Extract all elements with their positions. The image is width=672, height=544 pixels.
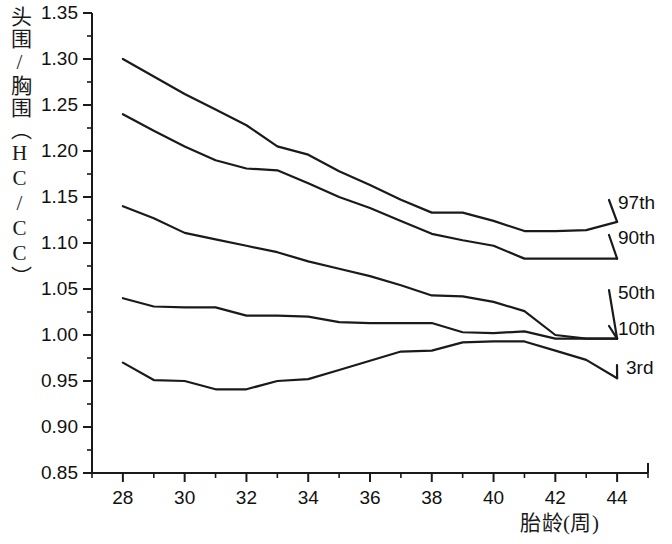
series-line-90th [123, 114, 617, 258]
x-tick-label: 32 [226, 487, 266, 509]
leader-line-97th [609, 200, 617, 222]
series-line-3rd [123, 341, 617, 389]
y-tick-label: 0.85 [16, 462, 78, 484]
minor-ticks [87, 36, 648, 478]
y-tick-label: 1.10 [16, 232, 78, 254]
x-tick-label: 40 [474, 487, 514, 509]
plot-area [0, 0, 672, 544]
x-tick-label: 36 [350, 487, 390, 509]
y-tick-label: 1.25 [16, 94, 78, 116]
series-label-50th: 50th [618, 282, 655, 304]
x-tick-label: 44 [597, 487, 637, 509]
series-label-97th: 97th [618, 192, 655, 214]
x-tick-label: 34 [288, 487, 328, 509]
x-tick-label: 38 [412, 487, 452, 509]
series-line-10th [123, 298, 617, 338]
y-tick-label: 1.15 [16, 186, 78, 208]
y-tick-label: 1.00 [16, 324, 78, 346]
leader-line-90th [609, 235, 617, 259]
y-tick-label: 1.20 [16, 140, 78, 162]
y-tick-label: 1.35 [16, 2, 78, 24]
series-label-3rd: 3rd [626, 357, 653, 379]
series-label-90th: 90th [618, 227, 655, 249]
axis-lines [92, 13, 648, 473]
y-tick-label: 1.30 [16, 48, 78, 70]
x-axis-label: 胎龄(周) [520, 506, 600, 536]
series-line-97th [123, 59, 617, 231]
y-tick-label: 0.90 [16, 416, 78, 438]
x-tick-label: 28 [103, 487, 143, 509]
series-label-10th: 10th [618, 318, 655, 340]
series-lines [123, 59, 617, 389]
series-leader-lines [609, 200, 617, 378]
y-tick-label: 0.95 [16, 370, 78, 392]
y-tick-label: 1.05 [16, 278, 78, 300]
chart-container: 头围/胸围（HC/CC） 0.850.900.951.001.051.101.1… [0, 0, 672, 544]
series-line-50th [123, 206, 617, 338]
x-tick-label: 30 [165, 487, 205, 509]
